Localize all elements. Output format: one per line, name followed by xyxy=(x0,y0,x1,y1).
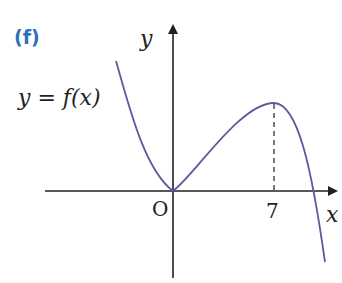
tick-7-label: 7 xyxy=(266,199,279,223)
y-axis-label: y xyxy=(139,26,153,51)
origin-label: O xyxy=(152,197,168,221)
graph: (f) y y = f(x) O 7 x xyxy=(0,0,342,283)
curve-label: y = f(x) xyxy=(17,85,101,110)
curve-f xyxy=(116,61,325,262)
part-label: (f) xyxy=(14,26,40,48)
x-axis-label: x xyxy=(326,202,339,227)
